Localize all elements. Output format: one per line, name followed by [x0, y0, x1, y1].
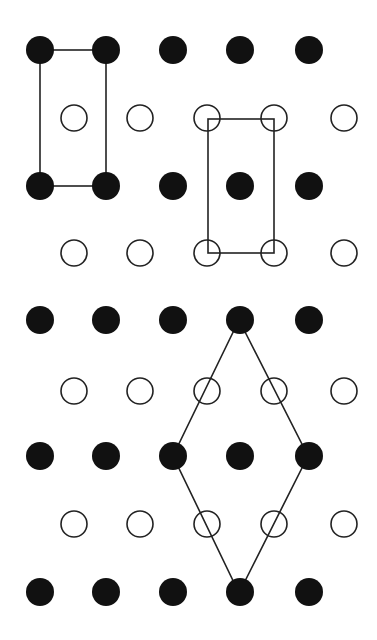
filled-dot	[295, 578, 323, 606]
filled-dot	[159, 172, 187, 200]
filled-dot	[92, 36, 120, 64]
filled-dot	[92, 442, 120, 470]
filled-dot	[159, 578, 187, 606]
filled-dot	[92, 172, 120, 200]
lattice-diagram	[0, 0, 377, 640]
filled-dot	[159, 306, 187, 334]
filled-dot	[226, 442, 254, 470]
filled-dot	[295, 442, 323, 470]
filled-dot	[26, 306, 54, 334]
filled-dot	[26, 578, 54, 606]
filled-dot	[159, 36, 187, 64]
filled-dot	[226, 578, 254, 606]
filled-dot	[226, 306, 254, 334]
filled-dot	[26, 172, 54, 200]
filled-dot	[226, 36, 254, 64]
filled-dot	[226, 172, 254, 200]
filled-dot	[295, 306, 323, 334]
filled-dot	[26, 442, 54, 470]
filled-dot	[295, 36, 323, 64]
filled-dot	[92, 306, 120, 334]
filled-dot	[92, 578, 120, 606]
filled-dot	[295, 172, 323, 200]
filled-dot	[26, 36, 54, 64]
filled-dot	[159, 442, 187, 470]
